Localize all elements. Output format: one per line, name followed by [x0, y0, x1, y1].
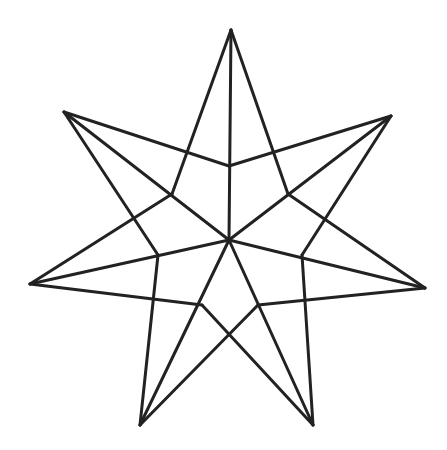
- star-spoke: [229, 30, 231, 240]
- star-edge: [64, 112, 229, 166]
- star-edge: [229, 116, 391, 166]
- star-edge: [202, 305, 313, 425]
- star-spoke: [229, 116, 391, 240]
- star-spoke: [229, 240, 313, 425]
- star-spoke: [64, 112, 229, 240]
- star-edge: [258, 288, 425, 305]
- star-diagram: [0, 0, 447, 450]
- star-edge: [140, 255, 158, 425]
- star-edge: [140, 305, 258, 425]
- star-spoke: [30, 240, 229, 284]
- star-icon: [0, 0, 447, 450]
- star-edge: [30, 284, 202, 305]
- star-edge: [30, 194, 172, 284]
- star-spoke: [140, 240, 229, 425]
- star-edge: [231, 30, 288, 194]
- star-spoke: [229, 240, 425, 288]
- star-edge: [302, 255, 313, 425]
- star-edge: [172, 30, 231, 194]
- star-edge: [288, 194, 425, 288]
